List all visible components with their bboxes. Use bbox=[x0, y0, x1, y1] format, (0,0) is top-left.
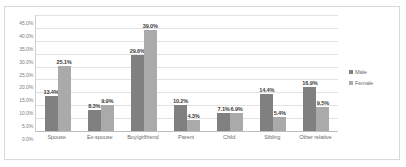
bar-group: 10.2%4.3% bbox=[165, 15, 208, 131]
bar-value-label: 4.3% bbox=[187, 113, 199, 119]
bar-value-label: 14.4% bbox=[259, 87, 274, 93]
legend-item[interactable]: Female bbox=[349, 80, 397, 86]
x-axis: SpouseEx-spouseBoy/girlfriendParentChild… bbox=[35, 134, 337, 140]
legend-label: Male bbox=[355, 69, 367, 75]
y-axis-tick-label: 0.0% bbox=[22, 136, 33, 142]
y-axis-tick-label: 5.0% bbox=[22, 123, 33, 129]
legend-label: Female bbox=[355, 80, 373, 86]
bar-value-label: 10.2% bbox=[173, 98, 188, 104]
bar-slot: 6.9% bbox=[230, 15, 243, 131]
y-axis: 45.0%40.0%35.0%30.0%25.0%20.0%15.0%10.0%… bbox=[7, 15, 33, 131]
legend-item[interactable]: Male bbox=[349, 69, 397, 75]
bar-male[interactable] bbox=[174, 105, 187, 131]
x-axis-tick-label: Other relative bbox=[294, 134, 337, 140]
bar-value-label: 9.9% bbox=[101, 98, 113, 104]
bar-female[interactable] bbox=[144, 30, 157, 131]
x-axis-tick-label: Spouse bbox=[35, 134, 78, 140]
plot-area: 13.4%25.1%8.3%9.9%29.6%39.0%10.2%4.3%7.1… bbox=[35, 15, 338, 132]
bar-slot: 25.1% bbox=[58, 15, 71, 131]
bar-value-label: 16.9% bbox=[302, 80, 317, 86]
plot-wrapper: 45.0%40.0%35.0%30.0%25.0%20.0%15.0%10.0%… bbox=[5, 7, 399, 159]
legend-swatch-icon bbox=[349, 70, 353, 74]
bar-value-label: 7.1% bbox=[218, 106, 230, 112]
y-axis-tick-label: 35.0% bbox=[19, 46, 33, 52]
y-axis-tick-label: 20.0% bbox=[19, 84, 33, 90]
y-axis-tick-label: 15.0% bbox=[19, 97, 33, 103]
bar-value-label: 39.0% bbox=[143, 23, 158, 29]
bar-slot: 16.9% bbox=[303, 15, 316, 131]
y-axis-tick-label: 30.0% bbox=[19, 59, 33, 65]
bar-male[interactable] bbox=[45, 96, 58, 131]
x-axis-tick-label: Sibling bbox=[251, 134, 294, 140]
x-axis-tick-label: Child bbox=[208, 134, 251, 140]
bar-slot: 5.4% bbox=[273, 15, 286, 131]
bar-female[interactable] bbox=[101, 105, 114, 131]
bar-male[interactable] bbox=[217, 113, 230, 131]
bar-group: 14.4%5.4% bbox=[252, 15, 295, 131]
bar-value-label: 8.3% bbox=[88, 103, 100, 109]
chart-container: 45.0%40.0%35.0%30.0%25.0%20.0%15.0%10.0%… bbox=[4, 6, 400, 160]
x-axis-tick-label: Boy/girlfriend bbox=[121, 134, 164, 140]
bar-slot: 39.0% bbox=[144, 15, 157, 131]
bar-female[interactable] bbox=[230, 113, 243, 131]
bar-value-label: 5.4% bbox=[274, 110, 286, 116]
legend-swatch-icon bbox=[349, 81, 353, 85]
bar-value-label: 25.1% bbox=[57, 59, 72, 65]
bar-male[interactable] bbox=[303, 87, 316, 131]
bar-group: 29.6%39.0% bbox=[122, 15, 165, 131]
y-axis-tick-label: 10.0% bbox=[19, 110, 33, 116]
chart-legend: MaleFemale bbox=[349, 69, 397, 91]
y-axis-tick-label: 25.0% bbox=[19, 72, 33, 78]
bar-slot: 4.3% bbox=[187, 15, 200, 131]
bar-slot: 14.4% bbox=[260, 15, 273, 131]
bar-female[interactable] bbox=[58, 66, 71, 131]
bar-slot: 13.4% bbox=[45, 15, 58, 131]
bar-value-label: 29.6% bbox=[130, 48, 145, 54]
bar-female[interactable] bbox=[316, 107, 329, 131]
bar-female[interactable] bbox=[187, 120, 200, 131]
bar-male[interactable] bbox=[260, 94, 273, 131]
y-axis-tick-label: 45.0% bbox=[19, 20, 33, 26]
bar-female[interactable] bbox=[273, 117, 286, 131]
bar-male[interactable] bbox=[131, 55, 144, 131]
bar-group: 13.4%25.1% bbox=[36, 15, 79, 131]
bar-value-label: 13.4% bbox=[44, 89, 59, 95]
bar-slot: 7.1% bbox=[217, 15, 230, 131]
bar-group: 16.9%9.5% bbox=[295, 15, 338, 131]
bar-slot: 9.9% bbox=[101, 15, 114, 131]
y-axis-tick-label: 40.0% bbox=[19, 33, 33, 39]
bar-value-label: 9.5% bbox=[317, 100, 329, 106]
bar-group: 8.3%9.9% bbox=[79, 15, 122, 131]
bar-group: 7.1%6.9% bbox=[209, 15, 252, 131]
bars-layer: 13.4%25.1%8.3%9.9%29.6%39.0%10.2%4.3%7.1… bbox=[36, 15, 338, 131]
bar-slot: 10.2% bbox=[174, 15, 187, 131]
x-axis-tick-label: Ex-spouse bbox=[78, 134, 121, 140]
bar-slot: 8.3% bbox=[88, 15, 101, 131]
bar-slot: 29.6% bbox=[131, 15, 144, 131]
bar-value-label: 6.9% bbox=[231, 106, 243, 112]
bar-slot: 9.5% bbox=[316, 15, 329, 131]
x-axis-tick-label: Parent bbox=[164, 134, 207, 140]
bar-male[interactable] bbox=[88, 110, 101, 131]
